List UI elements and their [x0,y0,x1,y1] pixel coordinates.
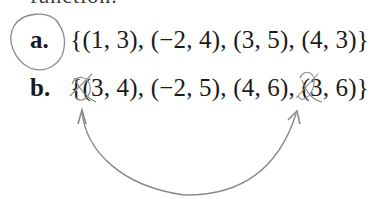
connecting-arrow-icon [82,112,296,195]
clipped-previous-line: function. [30,0,125,3]
problem-b: b. {(3, 4), (−2, 5), (4, 6), (3, 6)} [30,74,369,102]
arrowhead-left-icon [78,110,86,124]
relation-set: {(1, 3), (−2, 4), (3, 5), (4, 3)} [70,26,369,54]
problem-a: a. {(1, 3), (−2, 4), (3, 5), (4, 3)} [30,26,369,54]
relation-set: {(3, 4), (−2, 5), (4, 6), (3, 6)} [70,74,369,102]
clipped-text: function. [30,0,118,3]
problem-label: a. [30,26,64,54]
problem-label: b. [30,74,64,102]
arrowhead-right-icon [288,111,300,124]
